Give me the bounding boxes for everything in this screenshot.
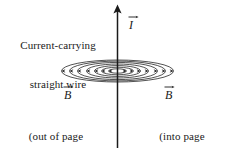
current-vector-symbol: I <box>129 18 133 32</box>
into-page-caption: (into page on this side) <box>132 104 232 152</box>
field-vector-right-symbol: B <box>165 88 172 102</box>
physics-diagram-figure: Current-carrying straight wire (out of p… <box>0 0 236 152</box>
out-of-page-caption-line-1: (out of page <box>6 130 106 143</box>
current-vector-glyph-wrapper: I <box>129 18 133 31</box>
wire-caption-line-2: straight wire <box>8 78 108 91</box>
wire-caption: Current-carrying straight wire <box>8 13 108 117</box>
field-vector-left-symbol: B <box>64 88 71 102</box>
wire-caption-line-1: Current-carrying <box>8 39 108 52</box>
current-vector-label: I <box>129 18 133 31</box>
field-vector-label-left: B <box>64 88 71 101</box>
out-of-page-caption: (out of page on this side) <box>6 104 106 152</box>
field-vector-label-right: B <box>165 88 172 101</box>
into-page-caption-line-1: (into page <box>132 130 232 143</box>
field-vector-right-glyph-wrapper: B <box>165 88 172 101</box>
field-vector-left-glyph-wrapper: B <box>64 88 71 101</box>
